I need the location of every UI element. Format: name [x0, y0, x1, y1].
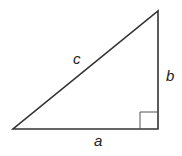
triangle-shape [13, 11, 158, 129]
label-hypotenuse-c: c [73, 50, 81, 67]
label-leg-a: a [94, 132, 102, 149]
triangle-svg: c b a [0, 0, 182, 156]
right-angle-marker [140, 112, 158, 129]
label-leg-b: b [166, 67, 174, 84]
right-triangle-diagram: c b a [0, 0, 182, 156]
